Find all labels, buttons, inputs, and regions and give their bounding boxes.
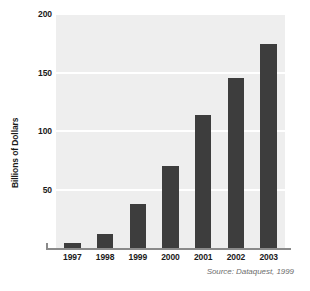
- x-tick-label: 2003: [259, 252, 278, 262]
- plot-area: [56, 14, 285, 248]
- bar: [97, 234, 113, 248]
- x-tick-label: 1998: [96, 252, 115, 262]
- bars: [56, 14, 285, 248]
- x-tick-label: 2001: [194, 252, 213, 262]
- y-tick-label: 50: [24, 185, 52, 195]
- y-tick-label: 100: [24, 126, 52, 136]
- y-tick-label: 200: [24, 9, 52, 19]
- bar-chart: Billions of Dollars 50100150200 19971998…: [0, 0, 310, 291]
- bar: [228, 78, 244, 248]
- x-tick-label: 2000: [161, 252, 180, 262]
- bar: [260, 44, 276, 248]
- x-axis-tick-labels: 1997199819992000200120022003: [56, 252, 285, 268]
- bar: [162, 166, 178, 248]
- source-note: Source: Dataquest, 1999: [207, 267, 294, 276]
- bar: [130, 204, 146, 248]
- y-axis-title: Billions of Dollars: [10, 78, 24, 188]
- y-tick-label: 150: [24, 68, 52, 78]
- x-tick-label: 2002: [227, 252, 246, 262]
- bar: [195, 115, 211, 248]
- y-axis-tip: [46, 243, 48, 249]
- x-tick-label: 1997: [63, 252, 82, 262]
- x-axis-line: [46, 248, 291, 250]
- x-tick-label: 1999: [129, 252, 148, 262]
